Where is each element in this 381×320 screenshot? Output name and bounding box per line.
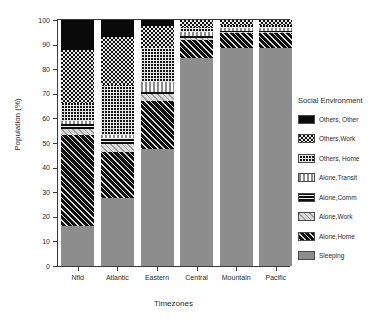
- bar-central: [180, 20, 213, 266]
- y-tick-mark: [53, 69, 57, 70]
- bar-segment: [259, 31, 292, 32]
- bar-segment: [220, 20, 253, 25]
- y-tick-mark: [53, 266, 57, 267]
- legend-item-label: Alone,Home: [319, 233, 355, 240]
- bar-segment: [141, 94, 174, 101]
- bar-segment: [180, 40, 213, 58]
- y-tick-mark: [53, 192, 57, 193]
- bar-segment: [101, 37, 134, 85]
- legend-swatch-icon: [298, 115, 315, 124]
- bar-segment: [180, 58, 213, 266]
- bar-segment: [141, 48, 174, 82]
- bar-segment: [220, 48, 253, 266]
- legend-swatch-icon: [298, 134, 315, 143]
- bar-segment: [141, 92, 174, 94]
- y-tick-mark: [53, 143, 57, 144]
- bar-segment: [220, 28, 253, 31]
- bar-segment: [259, 32, 292, 33]
- bar-segment: [61, 129, 94, 135]
- bar-eastern: [141, 20, 174, 266]
- y-tick-label: 100: [38, 17, 50, 24]
- bar-segment: [61, 103, 94, 121]
- bar-segment: [220, 31, 253, 32]
- legend-title: Social Environment: [298, 96, 381, 105]
- bar-segment: [141, 82, 174, 92]
- bar-segment: [220, 33, 253, 48]
- bar-segment: [180, 38, 213, 40]
- x-tick-mark: [78, 267, 79, 271]
- legend: Social Environment Others, OtherOthers,W…: [298, 96, 381, 268]
- bar-segment: [259, 20, 292, 25]
- y-tick-label: 30: [42, 189, 50, 196]
- bar-segment: [61, 20, 94, 50]
- legend-item-label: Others, Other: [319, 116, 358, 123]
- y-tick-label: 60: [42, 115, 50, 122]
- legend-item-label: Alone,Work: [319, 213, 352, 220]
- y-tick-label: 40: [42, 164, 50, 171]
- y-tick-label: 10: [42, 238, 50, 245]
- legend-swatch-icon: [298, 212, 315, 221]
- bar-segment: [101, 135, 134, 138]
- bar-mountain: [220, 20, 253, 266]
- bar-segment: [180, 36, 213, 38]
- legend-item-label: Others,Work: [319, 135, 355, 142]
- y-tick-label: 80: [42, 66, 50, 73]
- x-tick-mark: [117, 267, 118, 271]
- bar-segment: [61, 121, 94, 124]
- bar-nfld: [61, 20, 94, 266]
- legend-item-label: Sleeping: [319, 252, 344, 259]
- bar-segment: [101, 198, 134, 266]
- y-tick-mark: [53, 20, 57, 21]
- legend-swatch-icon: [298, 251, 315, 260]
- x-tick-mark: [157, 267, 158, 271]
- y-axis-title: Population (%): [13, 70, 22, 180]
- bar-segment: [141, 149, 174, 266]
- legend-item[interactable]: Others, Home: [298, 151, 381, 165]
- bar-segment: [180, 27, 213, 32]
- bar-segment: [101, 85, 134, 135]
- y-tick-mark: [53, 118, 57, 119]
- x-tick-mark: [197, 267, 198, 271]
- legend-item[interactable]: Others,Work: [298, 132, 381, 146]
- legend-item[interactable]: Alone,Home: [298, 229, 381, 243]
- legend-item[interactable]: Alone,Work: [298, 210, 381, 224]
- legend-item[interactable]: Alone,Comm: [298, 190, 381, 204]
- x-tick-mark: [236, 267, 237, 271]
- legend-swatch-icon: [298, 154, 315, 163]
- legend-item[interactable]: Sleeping: [298, 249, 381, 263]
- bar-segment: [220, 32, 253, 33]
- bar-atlantic: [101, 20, 134, 266]
- bar-segment: [101, 144, 134, 152]
- bar-segment: [61, 124, 94, 129]
- legend-item-label: Others, Home: [319, 155, 359, 162]
- bar-segment: [259, 28, 292, 31]
- bar-pacific: [259, 20, 292, 266]
- y-tick-mark: [53, 217, 57, 218]
- x-tick-mark: [276, 267, 277, 271]
- legend-item-label: Alone,Transit: [319, 174, 357, 181]
- bar-segment: [259, 25, 292, 28]
- y-tick-mark: [53, 94, 57, 95]
- x-axis-title: Timezones: [57, 299, 290, 308]
- bar-segment: [259, 33, 292, 48]
- bar-segment: [61, 50, 94, 103]
- legend-item[interactable]: Alone,Transit: [298, 171, 381, 185]
- legend-swatch-icon: [298, 173, 315, 182]
- y-tick-mark: [53, 45, 57, 46]
- bar-segment: [141, 20, 174, 26]
- bar-segment: [101, 20, 134, 37]
- legend-item-label: Alone,Comm: [319, 194, 357, 201]
- y-tick-label: 50: [42, 140, 50, 147]
- x-tick-label-pacific: Pacific: [251, 274, 301, 282]
- bar-segment: [141, 26, 174, 48]
- legend-items: Others, OtherOthers,WorkOthers, HomeAlon…: [298, 112, 381, 263]
- y-tick-mark: [53, 168, 57, 169]
- bar-segment: [220, 25, 253, 28]
- legend-swatch-icon: [298, 193, 315, 202]
- chart-root: Population (%) 0102030405060708090100 Nf…: [0, 0, 381, 320]
- legend-swatch-icon: [298, 232, 315, 241]
- bar-segment: [61, 135, 94, 226]
- y-tick-label: 20: [42, 213, 50, 220]
- bar-segment: [259, 48, 292, 266]
- legend-item[interactable]: Others, Other: [298, 112, 381, 126]
